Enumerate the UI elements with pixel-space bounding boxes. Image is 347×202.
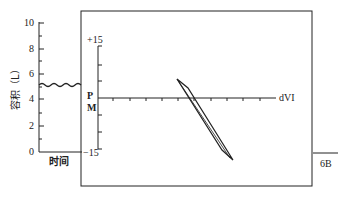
time-axis-label: 时间 bbox=[49, 157, 69, 167]
y-tick-0: 0 bbox=[29, 147, 34, 157]
p-label: P bbox=[87, 91, 93, 101]
pm-top-label: +15 bbox=[87, 35, 103, 45]
dvi-axis-label: dVI bbox=[279, 93, 295, 103]
y-tick-10: 10 bbox=[24, 18, 34, 28]
y-tick-4: 4 bbox=[29, 94, 34, 104]
y-tick-2: 2 bbox=[29, 121, 34, 131]
diagram-canvas bbox=[0, 0, 347, 202]
dvi-axis bbox=[98, 98, 276, 101]
volume-axis-label: 容积（L） bbox=[11, 64, 21, 110]
y-tick-6: 6 bbox=[29, 69, 34, 79]
y-tick-8: 8 bbox=[29, 44, 34, 54]
volume-trace bbox=[39, 84, 81, 87]
pm-bottom-label: −15 bbox=[83, 148, 99, 158]
m-label: M bbox=[87, 103, 96, 113]
figure-label: 6B bbox=[320, 159, 332, 169]
